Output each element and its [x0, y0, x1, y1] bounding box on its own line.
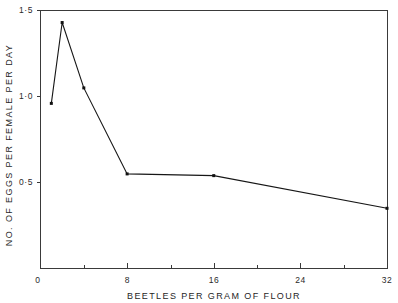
- y-tick-label-1-0: 1·0: [19, 91, 33, 101]
- data-point: [50, 102, 53, 105]
- data-point: [386, 207, 389, 210]
- axis-origin-label: 0: [35, 275, 40, 285]
- data-point: [82, 86, 85, 89]
- chart-figure: 1·5 1·0 0·5 0 8 16 24 32 BEETLES PER GRA…: [0, 0, 398, 303]
- data-point-markers: [50, 21, 389, 210]
- y-tick-label-0-5: 0·5: [19, 177, 33, 187]
- x-tick-label-16: 16: [209, 275, 220, 285]
- y-tick-label-1-5: 1·5: [19, 5, 33, 15]
- x-tick-label-32: 32: [382, 275, 393, 285]
- y-axis-title: NO. OF EGGS PER FEMALE PER DAY: [4, 44, 14, 246]
- data-series-line: [51, 23, 387, 209]
- data-point: [61, 21, 64, 24]
- y-axis-ticks: [37, 11, 41, 183]
- data-point: [212, 174, 215, 177]
- x-axis-title: BEETLES PER GRAM OF FLOUR: [127, 291, 301, 301]
- x-tick-label-8: 8: [125, 275, 130, 285]
- x-tick-label-24: 24: [295, 275, 306, 285]
- line-chart: 1·5 1·0 0·5 0 8 16 24 32 BEETLES PER GRA…: [0, 0, 398, 303]
- data-point: [126, 172, 129, 175]
- plot-frame: [41, 11, 388, 269]
